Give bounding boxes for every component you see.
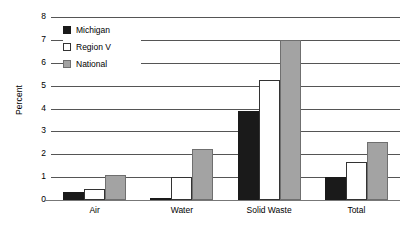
y-axis-tick-label: 1 <box>26 172 46 181</box>
legend-item: Region V <box>63 38 141 55</box>
bar-group <box>238 17 301 200</box>
x-axis-tick-label: Air <box>51 205 138 215</box>
legend-item-label: National <box>76 59 109 69</box>
legend-swatch-icon <box>63 26 71 34</box>
x-axis-tick-label: Total <box>313 205 400 215</box>
bar <box>325 177 346 200</box>
y-axis-tick-label: 6 <box>26 58 46 67</box>
legend-item: Michigan <box>63 21 141 38</box>
bar <box>238 111 259 200</box>
y-axis-tick-label: 7 <box>26 35 46 44</box>
bar <box>192 149 213 200</box>
legend-item: National <box>63 55 141 72</box>
bar <box>259 80 280 200</box>
bar <box>171 177 192 200</box>
bar <box>280 40 301 200</box>
legend-item-label: Region V <box>76 42 113 52</box>
y-axis-tick-label: 2 <box>26 149 46 158</box>
bar <box>367 142 388 200</box>
bar <box>105 175 126 200</box>
bar-group <box>325 17 388 200</box>
bar <box>63 192 84 200</box>
bar <box>346 162 367 200</box>
legend-item-label: Michigan <box>76 25 112 35</box>
y-axis-tick-labels: 012345678 <box>22 17 46 200</box>
y-axis-tick-label: 4 <box>26 104 46 113</box>
y-axis-tick-label: 0 <box>26 195 46 204</box>
legend-swatch-icon <box>63 60 71 68</box>
bar-group <box>150 17 213 200</box>
x-axis-line <box>44 200 400 201</box>
bar <box>84 189 105 200</box>
bar-chart: Percent 012345678 AirWaterSolid WasteTot… <box>0 0 416 237</box>
y-axis-tick-label: 3 <box>26 126 46 135</box>
y-axis-tick-label: 5 <box>26 81 46 90</box>
x-axis-tick-label: Water <box>138 205 225 215</box>
y-axis-tick-label: 8 <box>26 12 46 21</box>
legend-swatch-icon <box>63 43 71 51</box>
x-axis-tick-labels: AirWaterSolid WasteTotal <box>51 205 400 225</box>
x-axis-tick-label: Solid Waste <box>226 205 313 215</box>
chart-legend: MichiganRegion VNational <box>63 21 141 72</box>
